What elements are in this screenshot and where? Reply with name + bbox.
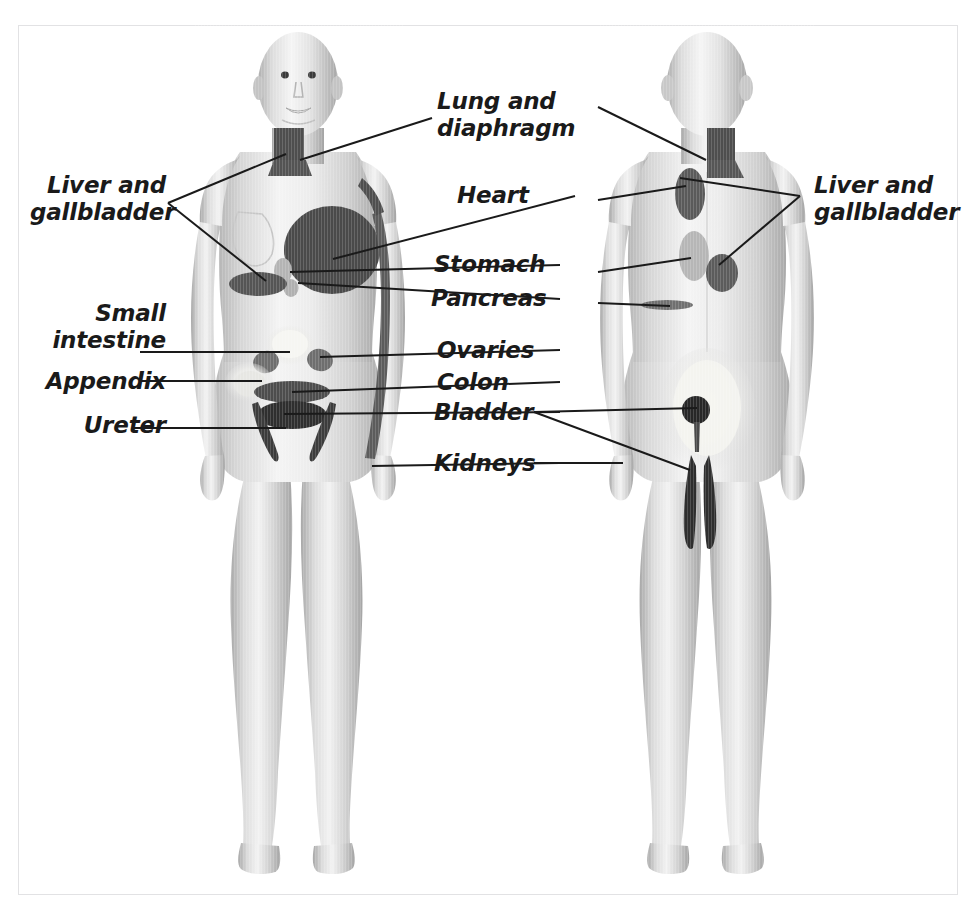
label-ureter: Ureter (24, 412, 166, 439)
diagram-stage: Liver and gallbladder Small intestine Ap… (0, 0, 972, 915)
label-appendix: Appendix (24, 368, 166, 395)
leader-heart-back (598, 186, 686, 200)
label-heart: Heart (457, 182, 597, 209)
label-pancreas: Pancreas (431, 285, 581, 312)
label-small-intestine: Small intestine (24, 300, 166, 354)
label-bladder: Bladder (434, 399, 584, 426)
leader-liver-v-back-b (719, 196, 800, 265)
leader-stomach-back (598, 258, 691, 272)
label-kidneys: Kidneys (434, 450, 584, 477)
label-stomach: Stomach (434, 251, 584, 278)
leader-liver-v-back-a (680, 178, 800, 196)
leader-liver-v-front-a (168, 154, 286, 203)
label-liver-and-gallbladder-right: Liver and gallbladder (814, 172, 964, 226)
label-ovaries: Ovaries (437, 337, 587, 364)
leader-liver-v-front-b (168, 203, 266, 281)
label-lung-and-diaphragm: Lung and diaphragm (437, 88, 617, 142)
leader-lung-diaphragm-front (300, 118, 432, 160)
label-liver-and-gallbladder-left: Liver and gallbladder (30, 172, 166, 226)
referred-pain-diagram: Liver and gallbladder Small intestine Ap… (0, 0, 972, 915)
label-colon: Colon (437, 369, 587, 396)
leader-pancreas-back (598, 303, 670, 306)
